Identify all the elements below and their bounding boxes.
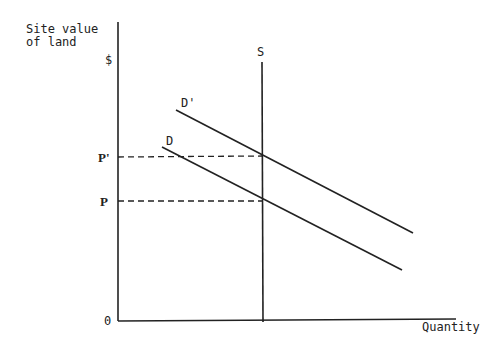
- demand-label: D: [166, 134, 173, 148]
- x-axis: [118, 319, 456, 321]
- y-axis-unit: $: [105, 53, 112, 67]
- demand-shifted-label: D': [181, 96, 195, 110]
- origin-label: 0: [104, 314, 111, 328]
- x-axis-label: Quantity: [422, 320, 480, 334]
- price-label: P: [100, 194, 108, 209]
- price-shifted-dashed-line: [118, 156, 262, 157]
- y-axis-label-line2: of land: [26, 35, 77, 49]
- supply-line: [262, 62, 263, 322]
- y-axis-label-line1: Site value: [26, 22, 98, 36]
- supply-label: S: [257, 45, 264, 59]
- supply-demand-diagram: Site value of land $ S D' D P' P 0 Quant…: [0, 0, 499, 352]
- price-shifted-label: P': [98, 150, 110, 165]
